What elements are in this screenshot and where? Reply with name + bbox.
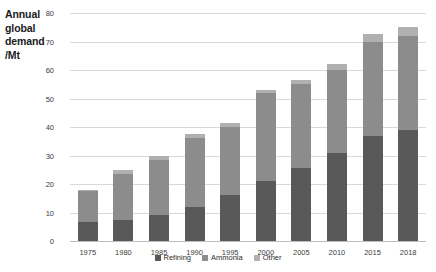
bar-slot: 1995 xyxy=(212,13,248,241)
bar-segment-ammonia[interactable] xyxy=(363,42,383,136)
bar-segment-refining[interactable] xyxy=(220,195,240,241)
legend-label: Ammonia xyxy=(211,253,243,262)
y-axis-tick-label: 60 xyxy=(34,66,54,75)
bar-segment-refining[interactable] xyxy=(363,136,383,241)
bar-slot: 1985 xyxy=(141,13,177,241)
bar-segment-ammonia[interactable] xyxy=(220,127,240,195)
stacked-bar[interactable] xyxy=(185,134,205,241)
y-axis-tick-label: 20 xyxy=(34,180,54,189)
bar-segment-ammonia[interactable] xyxy=(113,174,133,220)
y-axis-tick-label: 40 xyxy=(34,123,54,132)
stacked-bar[interactable] xyxy=(327,64,347,241)
stacked-bar[interactable] xyxy=(220,123,240,241)
bar-segment-ammonia[interactable] xyxy=(291,84,311,168)
bar-slot: 1980 xyxy=(106,13,142,241)
legend-swatch-icon xyxy=(254,255,260,261)
y-axis-tick-label: 80 xyxy=(34,9,54,18)
chart-legend: RefiningAmmoniaOther xyxy=(0,253,436,262)
stacked-bar[interactable] xyxy=(256,90,276,241)
stacked-bar[interactable] xyxy=(291,80,311,241)
bar-slot: 2015 xyxy=(355,13,391,241)
y-axis-tick-label: 50 xyxy=(34,94,54,103)
bar-segment-ammonia[interactable] xyxy=(78,191,98,221)
y-axis-tick-label: 0 xyxy=(34,237,54,246)
bar-segment-refining[interactable] xyxy=(149,215,169,241)
bar-segment-refining[interactable] xyxy=(113,220,133,241)
stacked-bar[interactable] xyxy=(363,34,383,241)
bar-segment-refining[interactable] xyxy=(256,181,276,241)
bar-slot: 2010 xyxy=(319,13,355,241)
y-axis-tick-label: 10 xyxy=(34,208,54,217)
bar-chart: Annual global demand /Mt 807060504030201… xyxy=(0,0,436,272)
legend-item[interactable]: Refining xyxy=(155,253,192,262)
stacked-bar[interactable] xyxy=(149,156,169,241)
legend-item[interactable]: Ammonia xyxy=(202,253,243,262)
bar-segment-ammonia[interactable] xyxy=(256,93,276,181)
legend-label: Other xyxy=(263,253,282,262)
legend-swatch-icon xyxy=(202,255,208,261)
bar-slot: 2005 xyxy=(284,13,320,241)
gridline xyxy=(70,241,426,242)
bar-segment-refining[interactable] xyxy=(78,222,98,241)
bar-segment-refining[interactable] xyxy=(327,153,347,241)
stacked-bar[interactable] xyxy=(398,27,418,241)
legend-swatch-icon xyxy=(155,255,161,261)
plot-area: 1975198019851990199520002005201020152018 xyxy=(70,13,426,241)
bar-slot: 2018 xyxy=(390,13,426,241)
stacked-bar[interactable] xyxy=(78,190,98,241)
bar-slot: 1990 xyxy=(177,13,213,241)
bar-segment-refining[interactable] xyxy=(398,130,418,241)
bar-slot: 2000 xyxy=(248,13,284,241)
bar-group: 1975198019851990199520002005201020152018 xyxy=(70,13,426,241)
bar-segment-ammonia[interactable] xyxy=(398,36,418,130)
y-axis-tick-label: 70 xyxy=(34,37,54,46)
y-axis-tick-label: 30 xyxy=(34,151,54,160)
bar-segment-ammonia[interactable] xyxy=(327,70,347,153)
bar-segment-refining[interactable] xyxy=(291,168,311,241)
bar-segment-other[interactable] xyxy=(398,27,418,36)
bar-segment-other[interactable] xyxy=(363,34,383,41)
legend-item[interactable]: Other xyxy=(254,253,282,262)
bar-segment-refining[interactable] xyxy=(185,207,205,241)
legend-label: Refining xyxy=(164,253,192,262)
bar-slot: 1975 xyxy=(70,13,106,241)
stacked-bar[interactable] xyxy=(113,170,133,241)
bar-segment-ammonia[interactable] xyxy=(185,138,205,206)
bar-segment-ammonia[interactable] xyxy=(149,160,169,216)
